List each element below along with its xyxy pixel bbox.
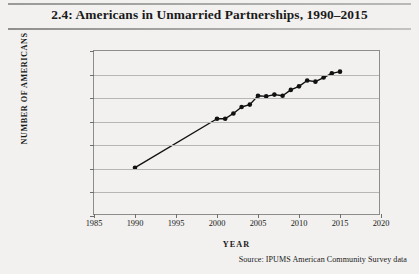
- y-gridline: [94, 145, 379, 146]
- y-gridline: [94, 169, 379, 170]
- y-tick-mark: [90, 169, 94, 170]
- y-tick-mark: [90, 122, 94, 123]
- y-gridline: [94, 122, 379, 123]
- x-tick-label: 1985: [74, 219, 114, 228]
- data-point-marker: [239, 105, 244, 110]
- x-tick-mark: [381, 214, 382, 218]
- data-point-marker: [223, 116, 228, 121]
- figure-container: 2.4: Americans in Unmarried Partnerships…: [0, 0, 419, 274]
- x-tick-mark: [217, 214, 218, 218]
- y-tick-mark: [90, 75, 94, 76]
- y-tick-mark: [90, 145, 94, 146]
- data-point-marker: [338, 69, 343, 74]
- x-tick-mark: [299, 214, 300, 218]
- data-point-marker: [272, 92, 277, 97]
- x-tick-mark: [94, 214, 95, 218]
- x-axis-title: YEAR: [93, 240, 380, 249]
- x-tick-label: 1990: [115, 219, 155, 228]
- data-point-marker: [289, 88, 294, 93]
- x-tick-label: 2000: [197, 219, 237, 228]
- chart-title: 2.4: Americans in Unmarried Partnerships…: [0, 7, 419, 23]
- data-point-marker: [313, 79, 318, 84]
- data-point-marker: [305, 78, 310, 83]
- y-tick-mark: [90, 192, 94, 193]
- data-series-line: [94, 51, 381, 216]
- x-tick-mark: [340, 214, 341, 218]
- data-point-marker: [297, 84, 302, 89]
- x-tick-label: 2010: [279, 219, 319, 228]
- plot-area: 2,000,0004,000,0006,000,0008,000,00010,0…: [93, 50, 380, 215]
- x-tick-label: 2005: [238, 219, 278, 228]
- y-axis-title: NUMBER OF AMERICANS: [20, 9, 29, 169]
- y-gridline: [94, 98, 379, 99]
- x-tick-mark: [258, 214, 259, 218]
- x-tick-label: 2020: [361, 219, 401, 228]
- source-note: Source: IPUMS American Community Survey …: [239, 255, 407, 264]
- y-gridline: [94, 192, 379, 193]
- y-gridline: [94, 75, 379, 76]
- data-point-marker: [321, 75, 326, 80]
- x-tick-mark: [176, 214, 177, 218]
- x-tick-mark: [135, 214, 136, 218]
- y-tick-mark: [90, 98, 94, 99]
- data-point-marker: [231, 111, 236, 116]
- data-point-marker: [215, 116, 220, 121]
- x-tick-label: 2015: [320, 219, 360, 228]
- x-tick-label: 1995: [156, 219, 196, 228]
- title-underline-rule: [8, 28, 411, 30]
- y-tick-mark: [90, 51, 94, 52]
- series-polyline: [135, 72, 340, 168]
- top-divider-rule: [8, 3, 411, 5]
- data-point-marker: [248, 102, 253, 107]
